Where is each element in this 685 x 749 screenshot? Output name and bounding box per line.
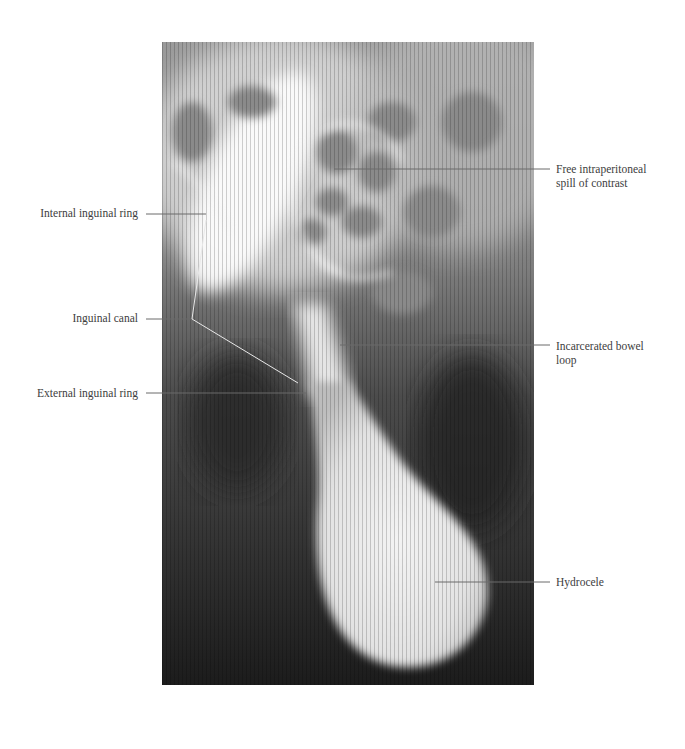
label-incarcerated-bowel-loop: Incarcerated bowel loop (556, 339, 644, 367)
label-line-1: Hydrocele (556, 575, 604, 589)
label-internal-inguinal-ring: Internal inguinal ring (40, 206, 138, 220)
label-line-1: Incarcerated bowel (556, 339, 644, 353)
label-inguinal-canal: Inguinal canal (73, 311, 138, 325)
label-external-inguinal-ring: External inguinal ring (37, 386, 138, 400)
label-hydrocele: Hydrocele (556, 575, 604, 589)
label-line-2: spill of contrast (556, 176, 646, 190)
label-line-2: loop (556, 353, 644, 367)
label-free-intraperitoneal-spill: Free intraperitoneal spill of contrast (556, 162, 646, 190)
radiograph-image (162, 42, 534, 685)
label-line-1: Free intraperitoneal (556, 162, 646, 176)
